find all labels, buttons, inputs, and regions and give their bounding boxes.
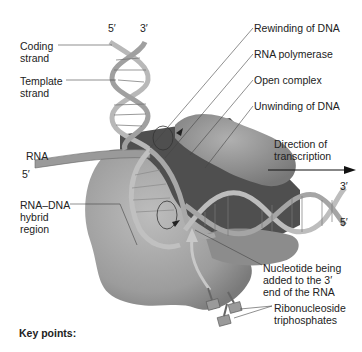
label-direction: Direction of transcription [274, 138, 331, 162]
end-label-3-right: 3′ [340, 180, 348, 192]
label-rewinding: Rewinding of DNA [254, 22, 340, 34]
label-template-strand: Template strand [20, 75, 63, 99]
end-label-5-rna: 5′ [22, 168, 30, 180]
label-ribonucleoside: Ribonucleoside triphosphates [274, 302, 346, 326]
label-nucleotide-added: Nucleotide being added to the 3′ end of … [263, 262, 341, 298]
end-label-5-right: 5′ [340, 216, 348, 228]
end-label-3-top: 3′ [140, 22, 148, 34]
key-points-heading: Key points: [19, 327, 76, 339]
label-rna: RNA [26, 150, 48, 162]
end-label-5-top: 5′ [108, 22, 116, 34]
label-rna-dna-hybrid: RNA–DNA hybrid region [20, 199, 70, 235]
label-unwinding: Unwinding of DNA [254, 100, 340, 112]
label-open-complex: Open complex [254, 74, 322, 86]
label-coding-strand: Coding strand [20, 40, 53, 64]
label-rna-polymerase: RNA polymerase [254, 48, 333, 60]
